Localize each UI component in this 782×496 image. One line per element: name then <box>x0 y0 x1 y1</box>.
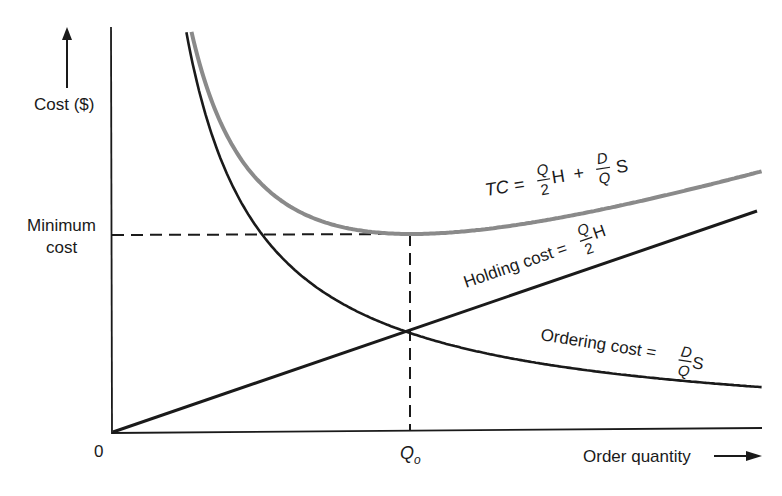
svg-text:Q: Q <box>597 168 612 187</box>
x-axis <box>112 428 762 433</box>
svg-text:Holding cost =: Holding cost = <box>461 239 570 292</box>
svg-text:S: S <box>615 156 630 178</box>
total-cost-curve <box>192 32 762 234</box>
qo-tick-label: Q o <box>400 443 421 467</box>
svg-text:TC =: TC = <box>483 174 525 200</box>
svg-text:o: o <box>414 453 421 467</box>
svg-text:+: + <box>572 162 586 183</box>
svg-text:Q: Q <box>677 361 692 380</box>
svg-text:2: 2 <box>582 239 595 258</box>
y-axis-arrow-icon <box>62 27 72 88</box>
minimum-cost-label-line1: Minimum <box>27 216 96 235</box>
svg-text:Q: Q <box>575 219 592 239</box>
svg-text:H: H <box>550 166 566 188</box>
ordering-cost-formula: Ordering cost = D Q S <box>537 320 706 381</box>
x-axis-arrow-icon <box>714 451 762 461</box>
svg-text:D: D <box>680 342 694 361</box>
svg-text:2: 2 <box>539 180 550 198</box>
origin-label: 0 <box>94 442 103 461</box>
svg-text:H: H <box>590 221 608 243</box>
svg-text:D: D <box>595 149 609 168</box>
ordering-cost-curve <box>186 32 761 387</box>
x-axis-label: Order quantity <box>583 447 691 466</box>
y-axis-label: Cost ($) <box>34 95 94 114</box>
total-cost-formula: TC = Q 2 H + D Q S <box>482 146 631 207</box>
y-axis <box>111 27 112 434</box>
eoq-cost-chart: Cost ($) 0 Q o Order quantity Minimum co… <box>0 0 782 496</box>
svg-text:Q: Q <box>535 160 550 179</box>
svg-text:S: S <box>691 353 705 374</box>
holding-cost-line <box>113 211 757 432</box>
svg-text:Q: Q <box>400 443 414 463</box>
minimum-cost-label-line2: cost <box>46 238 77 257</box>
svg-text:Ordering cost =: Ordering cost = <box>539 325 657 362</box>
